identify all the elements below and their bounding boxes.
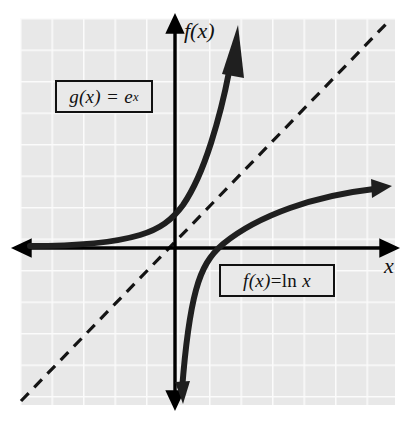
logarithm-formula-box: f(x) = ln x — [219, 264, 335, 297]
x-axis-arrow-left — [15, 241, 30, 255]
plot-canvas — [0, 0, 411, 422]
y-axis-label: f(x) — [184, 18, 215, 44]
math-figure: f(x) x g(x) = ex f(x) = ln x — [0, 0, 411, 422]
x-axis-label: x — [384, 253, 394, 279]
y-axis-label-text: f(x) — [184, 18, 215, 43]
exponential-formula-box: g(x) = ex — [55, 80, 153, 113]
logarithm-formula-equals: = — [271, 270, 282, 292]
plot-background — [20, 18, 395, 405]
logarithm-formula-operator: ln — [282, 270, 297, 292]
exponential-formula-base: g(x) = e — [69, 86, 133, 108]
logarithm-formula-argument: x — [302, 270, 311, 292]
logarithm-formula-function: f(x) — [243, 270, 271, 292]
x-axis-label-text: x — [384, 253, 394, 278]
